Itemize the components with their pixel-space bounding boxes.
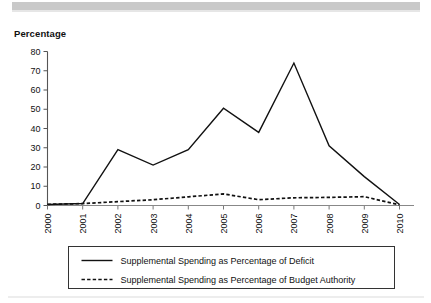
axis-lines: [48, 52, 415, 206]
x-tick-label: 2004: [184, 214, 194, 234]
x-tick-label: 2009: [360, 214, 370, 234]
data-series-layer: [48, 63, 400, 205]
x-tick-label: 2010: [395, 214, 405, 234]
x-tick-label: 2000: [43, 214, 53, 234]
x-tick-label: 2008: [325, 214, 335, 234]
line-chart-plot: 01020304050607080 2000200120022003200420…: [0, 0, 431, 303]
y-tick-label: 10: [30, 181, 40, 191]
chart-legend: Supplemental Spending as Percentage of D…: [69, 247, 395, 289]
x-tick-label: 2001: [78, 214, 88, 234]
y-tick-label: 40: [30, 124, 40, 134]
series-line-1: [48, 63, 400, 204]
x-tick-label: 2003: [149, 214, 159, 234]
y-tick-label: 60: [30, 85, 40, 95]
x-tick-label: 2007: [289, 214, 299, 234]
x-tick-label: 2002: [113, 214, 123, 234]
series-line-2: [48, 194, 400, 205]
y-tick-label: 0: [35, 201, 40, 211]
x-axis-ticks: 2000200120022003200420052006200720082009…: [43, 206, 405, 234]
legend-label: Supplemental Spending as Percentage of B…: [121, 275, 356, 285]
y-tick-label: 80: [30, 47, 40, 57]
y-tick-label: 20: [30, 162, 40, 172]
y-tick-label: 70: [30, 66, 40, 76]
x-tick-label: 2005: [219, 214, 229, 234]
y-tick-label: 50: [30, 104, 40, 114]
legend-label: Supplemental Spending as Percentage of D…: [121, 256, 315, 266]
x-tick-label: 2006: [254, 214, 264, 234]
y-tick-label: 30: [30, 143, 40, 153]
y-axis-ticks: 01020304050607080: [30, 47, 47, 211]
chart-figure: Percentage 01020304050607080 20002001200…: [0, 0, 431, 303]
